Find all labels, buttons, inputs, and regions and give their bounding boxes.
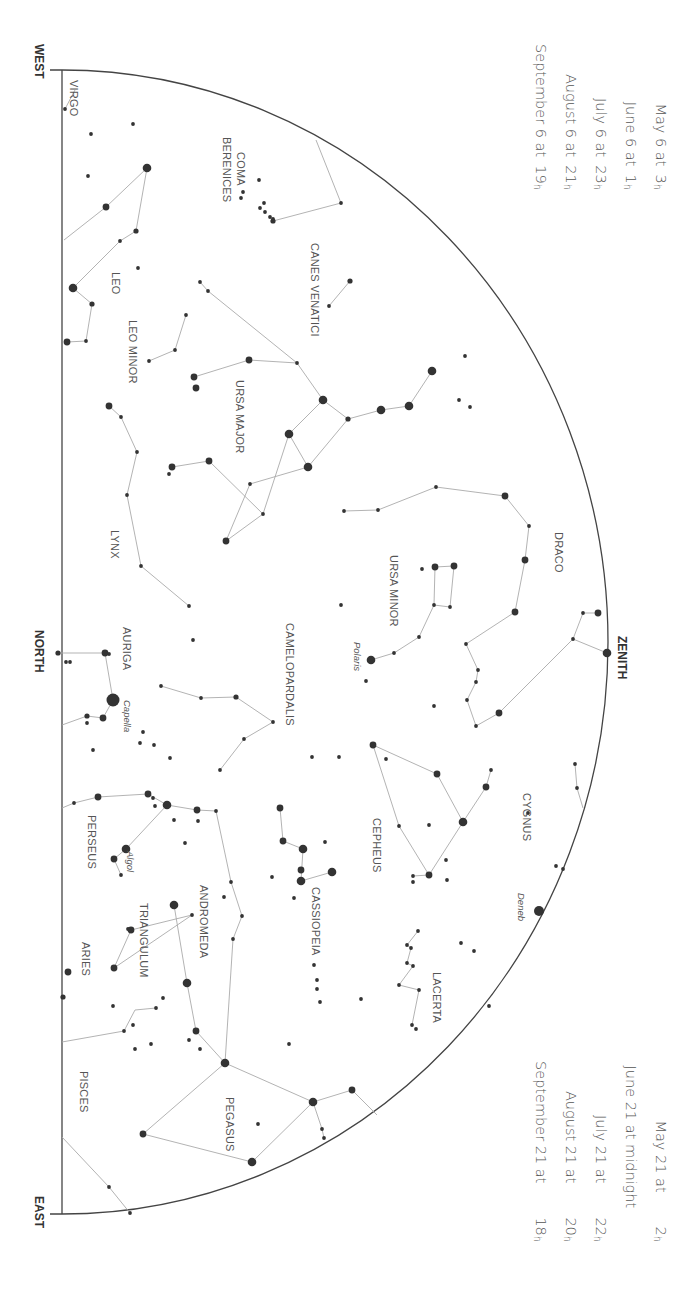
star	[138, 741, 142, 745]
constellation-line	[126, 805, 167, 849]
constellation-label: CEPHEUS	[371, 818, 383, 873]
star	[125, 493, 129, 497]
direction-zenith: ZENITH	[615, 636, 629, 679]
constellation-line	[62, 1008, 156, 1042]
star	[459, 941, 463, 945]
time-entry-hour: 2h	[646, 1227, 676, 1243]
star	[170, 901, 179, 910]
time-table-lower: May 21 at2hJune 21 at midnightJuly 21 at…	[526, 1061, 676, 1242]
constellation-line	[172, 461, 263, 514]
star	[468, 405, 472, 409]
star	[111, 1004, 115, 1008]
star	[427, 823, 431, 827]
constellation-line	[573, 639, 607, 653]
star-name-label: Algol	[125, 851, 136, 872]
star	[187, 1038, 191, 1042]
constellation-label: PISCES	[78, 1071, 90, 1113]
star	[392, 651, 396, 655]
time-entry: June 6 at1h	[616, 44, 646, 190]
constellation-line	[399, 931, 419, 1025]
constellation-label: BERENICES	[221, 137, 233, 202]
time-entry-hour: 3h	[646, 174, 676, 190]
star	[420, 567, 424, 571]
constellation-line	[161, 686, 273, 770]
star	[397, 824, 401, 828]
constellation-label: PEGASUS	[224, 1097, 236, 1152]
star	[451, 563, 458, 570]
star	[432, 603, 436, 607]
star	[64, 660, 68, 664]
star	[489, 768, 493, 772]
star	[417, 988, 421, 992]
star	[327, 304, 331, 308]
star	[411, 964, 415, 968]
star	[183, 841, 187, 845]
time-entry-date: August 6 at	[563, 74, 579, 157]
constellation-line	[434, 566, 454, 607]
star	[397, 983, 401, 987]
star	[377, 406, 386, 415]
star	[573, 762, 577, 766]
star	[131, 122, 135, 126]
star-name-label: Capella	[122, 700, 133, 732]
time-table-upper: May 6 at3hJune 6 at1hJuly 6 at23hAugust …	[526, 44, 676, 190]
star	[119, 415, 123, 419]
star	[89, 301, 94, 306]
constellation-label: LACERTA	[431, 972, 443, 1023]
star	[106, 403, 113, 410]
constellation-line	[289, 400, 323, 467]
star	[534, 906, 544, 916]
constellation-label: ARIES	[80, 942, 92, 976]
constellation-label: URSA MINOR	[388, 555, 400, 627]
star	[102, 650, 109, 657]
star	[299, 845, 308, 854]
constellation-label: VIRGO	[68, 80, 80, 116]
star	[432, 704, 436, 708]
star-name-label: Deneb	[516, 893, 527, 921]
constellation-label: DRACO	[553, 532, 565, 573]
star	[163, 801, 172, 810]
star	[85, 721, 89, 725]
star	[345, 416, 350, 421]
star	[118, 239, 122, 243]
constellation-line	[329, 281, 350, 306]
star	[111, 965, 118, 972]
star	[86, 174, 90, 178]
star	[472, 949, 476, 953]
star	[147, 359, 151, 363]
star	[194, 807, 201, 814]
constellation-label: COMA	[235, 152, 247, 186]
constellation-label: CANES VENATICI	[309, 243, 321, 337]
star	[173, 348, 177, 352]
time-entry-date: September 21 at	[533, 1061, 549, 1183]
constellation-label: URSA MAJOR	[234, 380, 246, 454]
star	[159, 684, 163, 688]
star	[367, 656, 376, 665]
constellation-line	[149, 315, 186, 361]
star	[410, 1023, 414, 1027]
star	[168, 756, 172, 760]
time-entry-date: August 21 at	[563, 1091, 579, 1183]
star	[434, 485, 438, 489]
star	[198, 1047, 202, 1051]
star	[141, 730, 145, 734]
constellation-line	[280, 808, 332, 881]
star	[91, 748, 95, 752]
star	[448, 605, 452, 609]
star	[417, 635, 421, 639]
star	[512, 609, 519, 616]
time-entry-hour: 22h	[586, 1217, 616, 1242]
star	[603, 649, 612, 658]
star	[315, 987, 319, 991]
star	[487, 1004, 491, 1008]
star	[474, 680, 478, 684]
star	[154, 1006, 158, 1010]
star	[68, 660, 72, 664]
star	[239, 196, 243, 200]
direction-north: NORTH	[32, 630, 46, 673]
star	[277, 805, 284, 812]
star	[271, 720, 275, 724]
star	[256, 1122, 260, 1126]
star	[320, 1127, 324, 1131]
time-entry: June 21 at midnight	[616, 1061, 646, 1242]
